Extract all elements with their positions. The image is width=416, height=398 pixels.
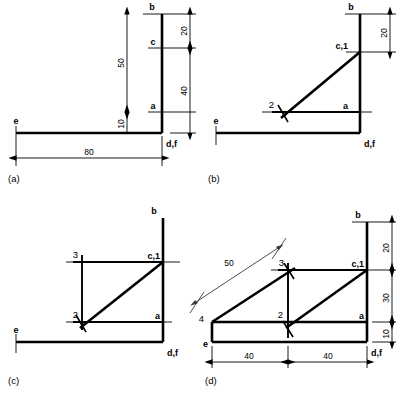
- panel-d-dim-40-left: 40: [244, 351, 254, 361]
- panel-b-dim-20: 20: [379, 28, 389, 38]
- panel-c-hypotenuse: [80, 262, 163, 328]
- panel-a-caption: (a): [8, 173, 20, 184]
- panel-a-label-df: d,f: [166, 139, 178, 149]
- panel-b-label-c1: c,1: [335, 41, 348, 51]
- panel-d-dim-ext-50-b: [272, 238, 286, 259]
- panel-c-label-a: a: [155, 311, 161, 321]
- panel-b-label-b: b: [348, 2, 354, 12]
- panel-a-dim-50: 50: [116, 58, 126, 68]
- panel-a-label-b: b: [149, 2, 155, 12]
- panel-a-dim-80: 80: [84, 147, 94, 157]
- panel-d-dim-50: 50: [224, 258, 234, 268]
- panel-b-label-a: a: [343, 101, 349, 111]
- panel-b-hypotenuse: [281, 52, 360, 118]
- panel-d-mark-4: 4: [199, 313, 204, 324]
- panel-b-label-e: e: [213, 116, 218, 126]
- panel-d-mark-2: 2: [278, 309, 283, 320]
- panel-d-dim-30: 30: [381, 293, 391, 303]
- panel-a-dim-20: 20: [179, 26, 189, 36]
- panel-a-label-a: a: [150, 101, 156, 111]
- panel-a: b c a e d,f 50 10 20 40 80 (a): [8, 2, 196, 184]
- panel-d-label-c1: c,1: [351, 259, 364, 269]
- panel-b-label-df: d,f: [364, 139, 376, 149]
- panel-b-caption: (b): [208, 173, 220, 184]
- panel-c-label-e: e: [13, 325, 18, 335]
- panel-c: b c,1 a e d,f 3 2 (c): [8, 206, 180, 386]
- panel-c-mark-2: 2: [73, 309, 78, 320]
- panel-d-dim-20: 20: [381, 243, 391, 253]
- panel-d-mark-3: 3: [279, 257, 284, 268]
- panel-d-hypotenuse-right: [286, 270, 367, 328]
- panel-d-dim-40-right: 40: [323, 351, 333, 361]
- panel-d-dim-10: 10: [381, 329, 391, 339]
- panel-d-caption: (d): [205, 375, 217, 386]
- panel-d-label-df: d,f: [371, 348, 383, 358]
- panel-c-mark-3: 3: [73, 249, 78, 260]
- panel-c-label-df: d,f: [167, 348, 179, 358]
- panel-d-label-a: a: [359, 311, 365, 321]
- panel-c-caption: (c): [8, 375, 19, 386]
- drawing-canvas: b c a e d,f 50 10 20 40 80 (a): [0, 0, 416, 398]
- panel-a-dim-40: 40: [179, 86, 189, 96]
- panel-b-mark-2: 2: [269, 99, 274, 110]
- panel-a-dim-10: 10: [116, 119, 126, 129]
- panel-d-label-e: e: [203, 339, 208, 349]
- panel-d-label-b: b: [355, 210, 361, 220]
- technical-drawing-figure: b c a e d,f 50 10 20 40 80 (a): [0, 0, 416, 398]
- panel-c-label-b: b: [151, 206, 157, 216]
- panel-b: b c,1 a e d,f 2 20 (b): [208, 2, 396, 184]
- panel-d-dim-ext-50-a: [190, 292, 204, 313]
- panel-c-label-c1: c,1: [147, 251, 160, 261]
- panel-d: b c,1 a e d,f 3 2 4 50 20 30 10 40 40 (d…: [190, 210, 396, 386]
- panel-a-label-c: c: [150, 37, 155, 47]
- panel-d-dim-line-50: [196, 248, 278, 302]
- panel-a-label-e: e: [13, 116, 18, 126]
